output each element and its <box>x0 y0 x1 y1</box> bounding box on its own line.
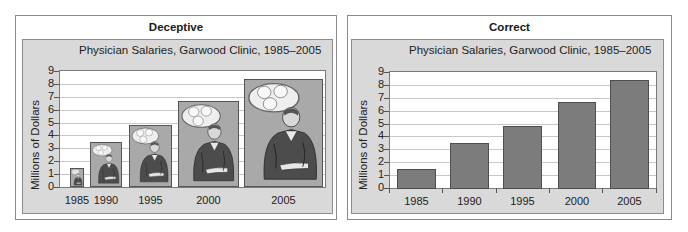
bar-2000 <box>558 102 596 189</box>
plot-area <box>389 71 657 189</box>
y-tick-label: 1 <box>372 168 384 180</box>
deceptive-panel: Deceptive Physician Salaries, Garwood Cl… <box>15 15 337 220</box>
y-tick-label: 3 <box>42 141 54 153</box>
x-tick-label: 2000 <box>557 195 597 207</box>
y-tick-label: 5 <box>42 116 54 128</box>
x-tick-label: 1990 <box>450 195 490 207</box>
panel-heading: Correct <box>348 21 671 33</box>
y-tick <box>384 162 389 163</box>
y-tick <box>384 111 389 112</box>
x-tick-label: 1985 <box>397 195 437 207</box>
y-tick <box>384 175 389 176</box>
y-tick-label: 0 <box>372 181 384 193</box>
plot-area <box>59 70 326 188</box>
y-tick <box>54 148 59 149</box>
y-tick-label: 1 <box>42 167 54 179</box>
chart-title: Physician Salaries, Garwood Clinic, 1985… <box>79 44 321 56</box>
y-tick-label: 4 <box>42 128 54 140</box>
x-tick <box>389 188 390 193</box>
bar-1995 <box>503 126 542 189</box>
y-tick <box>54 110 59 111</box>
pictograph-bar-1985 <box>70 168 84 187</box>
y-axis-label: Millions of Dollars <box>357 100 369 190</box>
pictograph-bar-1990 <box>90 142 122 187</box>
x-tick <box>496 188 497 193</box>
x-tick-label: 1995 <box>503 195 543 207</box>
y-tick-label: 9 <box>42 64 54 76</box>
y-tick <box>54 135 59 136</box>
y-tick <box>54 123 59 124</box>
y-tick-label: 6 <box>42 103 54 115</box>
y-tick <box>384 98 389 99</box>
pictograph-bar-1995 <box>129 125 172 187</box>
y-tick-label: 0 <box>42 180 54 192</box>
y-tick-label: 4 <box>372 129 384 141</box>
y-tick <box>54 71 59 72</box>
y-tick <box>384 85 389 86</box>
pictograph-bar-2000 <box>178 101 239 187</box>
y-tick <box>384 136 389 137</box>
y-tick <box>54 97 59 98</box>
y-tick-label: 6 <box>372 104 384 116</box>
x-tick <box>442 188 443 193</box>
deceptive-chart: Physician Salaries, Garwood Clinic, 1985… <box>22 39 333 214</box>
y-tick <box>54 187 59 188</box>
y-tick-label: 3 <box>372 142 384 154</box>
x-tick <box>602 188 603 193</box>
y-tick-label: 7 <box>42 90 54 102</box>
y-tick <box>54 161 59 162</box>
y-tick-label: 9 <box>372 65 384 77</box>
correct-chart: Physician Salaries, Garwood Clinic, 1985… <box>351 39 664 214</box>
pictograph-bar-2005 <box>244 79 323 187</box>
y-tick-label: 7 <box>372 91 384 103</box>
y-axis-label: Millions of Dollars <box>29 100 41 190</box>
x-tick-label: 1995 <box>131 194 171 206</box>
x-tick-label: 1990 <box>86 194 126 206</box>
y-tick-label: 8 <box>42 77 54 89</box>
y-tick <box>384 149 389 150</box>
bar-1985 <box>397 169 436 189</box>
bar-2005 <box>610 80 649 189</box>
x-tick <box>549 188 550 193</box>
y-tick-label: 8 <box>372 78 384 90</box>
y-tick <box>384 124 389 125</box>
y-tick <box>384 72 389 73</box>
bar-1990 <box>450 143 489 189</box>
correct-panel: Correct Physician Salaries, Garwood Clin… <box>347 15 672 220</box>
y-tick-label: 2 <box>42 154 54 166</box>
panel-heading: Deceptive <box>16 21 336 33</box>
chart-title: Physician Salaries, Garwood Clinic, 1985… <box>409 44 651 56</box>
x-tick-label: 2000 <box>189 194 229 206</box>
y-tick <box>54 174 59 175</box>
y-tick-label: 2 <box>372 155 384 167</box>
y-tick <box>54 84 59 85</box>
x-tick-label: 2005 <box>264 194 304 206</box>
y-tick-label: 5 <box>372 117 384 129</box>
x-tick <box>656 188 657 193</box>
x-tick-label: 2005 <box>610 195 650 207</box>
